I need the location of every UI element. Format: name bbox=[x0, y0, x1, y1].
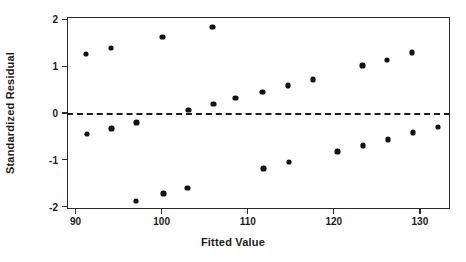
residual-plot-figure: 90100110120130 -2-1012 Fitted Value Stan… bbox=[0, 0, 466, 262]
data-point bbox=[134, 120, 139, 125]
data-point bbox=[210, 25, 215, 30]
data-point bbox=[261, 166, 266, 171]
x-tick-mark bbox=[75, 209, 76, 214]
data-point bbox=[335, 149, 340, 154]
data-point bbox=[311, 77, 316, 82]
x-tick-mark bbox=[419, 209, 420, 214]
data-point bbox=[109, 126, 114, 131]
y-tick-label: 2 bbox=[52, 14, 58, 25]
y-tick-mark bbox=[62, 19, 67, 20]
data-point bbox=[360, 63, 365, 68]
y-tick-mark bbox=[62, 159, 67, 160]
y-tick-label: -2 bbox=[49, 201, 58, 212]
x-tick-label: 110 bbox=[240, 216, 256, 227]
y-tick-label: -1 bbox=[49, 154, 58, 165]
x-tick-label: 130 bbox=[412, 216, 429, 227]
y-tick-mark bbox=[62, 112, 67, 113]
y-axis-title: Standardized Residual bbox=[4, 52, 16, 174]
data-point bbox=[211, 102, 216, 107]
data-point bbox=[161, 191, 166, 196]
x-tick-mark bbox=[161, 209, 162, 214]
y-tick-mark bbox=[62, 206, 67, 207]
data-point bbox=[260, 90, 265, 95]
x-tick-label: 90 bbox=[70, 216, 81, 227]
data-point bbox=[386, 137, 391, 142]
x-axis-title: Fitted Value bbox=[0, 236, 466, 248]
zero-reference-line bbox=[67, 113, 450, 115]
x-tick-mark bbox=[333, 209, 334, 214]
data-point bbox=[185, 186, 190, 191]
x-tick-label: 120 bbox=[325, 216, 342, 227]
y-tick-mark bbox=[62, 66, 67, 67]
y-tick-label: 1 bbox=[52, 61, 58, 72]
x-tick-label: 100 bbox=[153, 216, 170, 227]
x-tick-mark bbox=[247, 209, 248, 214]
y-tick-label: 0 bbox=[52, 108, 58, 119]
